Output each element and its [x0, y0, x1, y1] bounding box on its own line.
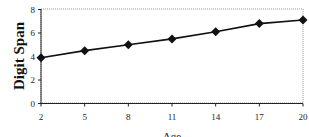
diamond-marker: [80, 46, 89, 55]
x-tick-label: 20: [299, 112, 309, 122]
x-tick-label: 5: [82, 112, 87, 122]
diamond-marker: [255, 19, 264, 28]
x-ticks: 25811141720: [39, 104, 308, 122]
diamond-marker: [211, 27, 220, 36]
diamond-marker: [299, 16, 308, 25]
line-chart: 02468 25811141720 Digit Span Age: [0, 0, 309, 137]
y-tick-label: 2: [31, 75, 36, 85]
y-tick-label: 0: [31, 99, 36, 109]
x-tick-label: 2: [39, 112, 44, 122]
diamond-marker: [37, 53, 46, 62]
x-tick-label: 17: [255, 112, 265, 122]
y-tick-label: 8: [31, 5, 36, 15]
y-tick-label: 6: [31, 28, 36, 38]
x-tick-label: 14: [211, 112, 221, 122]
diamond-marker: [124, 40, 133, 49]
x-tick-label: 11: [168, 112, 177, 122]
x-tick-label: 8: [126, 112, 131, 122]
x-axis-label: Age: [163, 130, 181, 137]
y-tick-label: 4: [31, 52, 36, 62]
diamond-marker: [168, 34, 177, 43]
y-axis-label: Digit Span: [11, 21, 27, 90]
